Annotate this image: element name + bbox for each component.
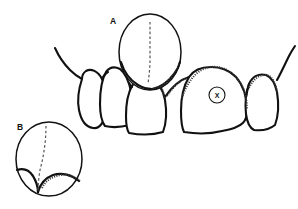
inset-a-label: A [110, 16, 116, 26]
gingival-sweep-right [277, 46, 295, 80]
inset-b-label: B [17, 122, 23, 132]
marker-x-label: X [215, 92, 220, 99]
gingival-sweep-left [55, 48, 82, 79]
tooth-central-incisor-right [181, 67, 247, 133]
tooth-lateral-incisor-right [246, 74, 278, 130]
magnifier-b-group: B [16, 122, 82, 196]
dental-diagram-svg: A B X [0, 0, 298, 209]
dental-figure-root: A B X [0, 0, 298, 209]
